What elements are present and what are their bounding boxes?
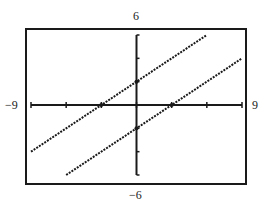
series-line-1 [31, 35, 207, 152]
intercept-point [135, 80, 139, 84]
intercept-point [170, 103, 174, 107]
series-line-2 [66, 58, 242, 175]
intercept-point [99, 103, 103, 107]
intercept-point [135, 126, 139, 130]
plot-area [0, 0, 266, 210]
